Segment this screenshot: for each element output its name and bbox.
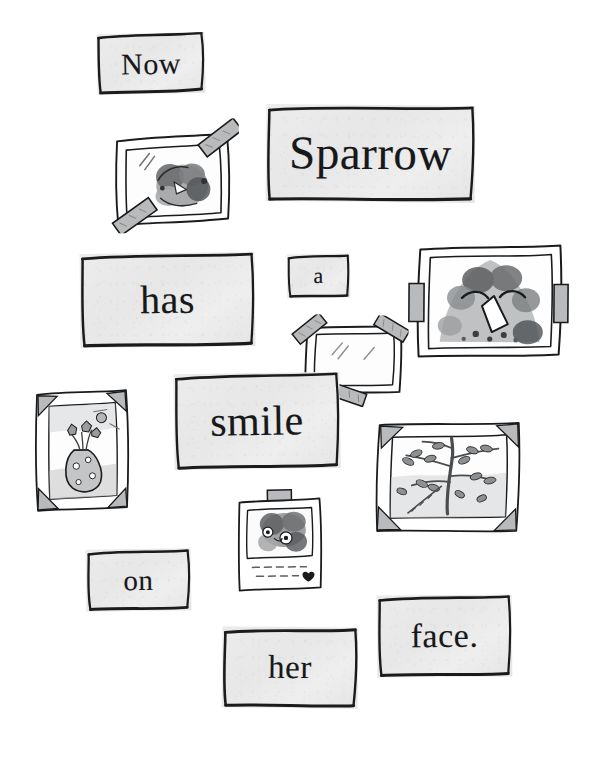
word-label-smile: smile	[210, 399, 304, 442]
photo-leafy-branch[interactable]	[371, 417, 527, 535]
word-label-sparrow: Sparrow	[289, 129, 452, 177]
word-card-smile[interactable]: smile	[173, 372, 340, 471]
word-label-now: Now	[121, 48, 181, 79]
word-card-face[interactable]: face.	[377, 594, 513, 677]
word-label-face: face.	[411, 619, 479, 654]
tape-piece	[554, 284, 568, 322]
photo-taped-bird[interactable]	[99, 118, 242, 234]
word-card-has[interactable]: has	[80, 252, 256, 348]
leafy-branch-drawing	[371, 417, 527, 535]
collage-page: Now	[0, 0, 605, 761]
word-label-a: a	[313, 265, 324, 287]
word-label-has: has	[140, 280, 195, 321]
word-card-sparrow[interactable]: Sparrow	[266, 104, 476, 203]
word-label-her: her	[268, 651, 312, 684]
word-label-on: on	[123, 565, 153, 594]
word-card-a[interactable]: a	[287, 254, 351, 299]
photo-flower-vase[interactable]	[29, 387, 135, 513]
word-card-now[interactable]: Now	[96, 32, 205, 95]
polaroid-bird-drawing	[231, 487, 328, 592]
photo-polaroid-bird[interactable]	[231, 487, 328, 592]
taped-bird-drawing	[99, 118, 242, 234]
flower-vase-drawing	[29, 387, 135, 513]
word-card-her[interactable]: her	[222, 626, 359, 708]
bird-shape	[258, 512, 308, 553]
bird-face-drawing	[406, 239, 571, 360]
word-card-on[interactable]: on	[86, 548, 192, 611]
photo-bird-face[interactable]	[406, 239, 571, 360]
tape-piece	[409, 283, 424, 321]
